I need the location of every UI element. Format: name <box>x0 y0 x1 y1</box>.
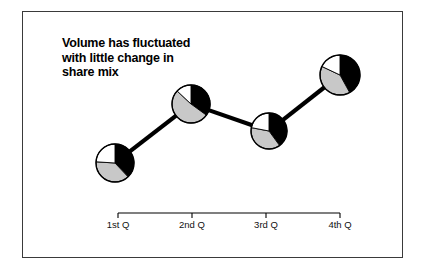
axis-label-3rdq: 3rd Q <box>254 219 278 230</box>
connector-lines <box>129 87 325 152</box>
connector-line-1stq-to-2ndq <box>129 115 177 152</box>
pie-marker-1stq <box>96 144 134 182</box>
slide-canvas: Volume has fluctuated with little change… <box>0 0 427 274</box>
axis-label-1stq: 1st Q <box>107 219 130 230</box>
pie-marker-2ndq <box>172 85 210 123</box>
axis-label-2ndq: 2nd Q <box>179 219 205 230</box>
connector-line-2ndq-to-3rdq <box>208 110 253 126</box>
pie-trend-plot <box>0 0 427 274</box>
category-axis <box>118 213 340 218</box>
pie-marker-3rdq <box>251 113 287 149</box>
connector-line-3rdq-to-4thq <box>282 87 325 121</box>
axis-label-4thq: 4th Q <box>328 219 351 230</box>
pie-marker-4thq <box>320 55 360 95</box>
